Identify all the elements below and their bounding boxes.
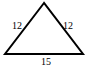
triangle-diagram: 12 12 15 <box>0 0 86 67</box>
base-label: 15 <box>41 56 51 67</box>
right-side-label: 12 <box>63 20 73 31</box>
left-side-label: 12 <box>12 20 22 31</box>
